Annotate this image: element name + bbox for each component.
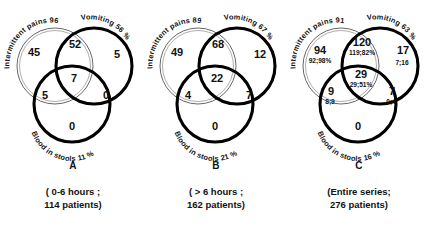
region-vomiting-only: 17: [397, 44, 409, 56]
panel-letter-a: A: [0, 160, 146, 171]
region-pains-blood: 5: [42, 89, 48, 101]
panel-caption-a: ( 0-6 hours ; 114 patients): [0, 186, 146, 211]
set-label-pains-text: Intermittent pains 96 %: [0, 0, 62, 69]
venn-figure: Intermittent pains 96 % Vomiting 56 % Bl…: [0, 0, 439, 234]
region-vomiting-only-sub: 7;16: [395, 59, 409, 67]
region-pains-vomiting: 52: [69, 38, 81, 50]
caption-line-1: (Entire series;: [286, 186, 432, 199]
region-pains-only: 94: [314, 44, 327, 56]
venn-diagram-b: Intermittent pains 89 % Vomiting 67 % Bl…: [143, 0, 289, 160]
region-pains-only-sub: 92;98%: [309, 57, 332, 65]
region-vomiting-blood: 7: [246, 89, 252, 101]
region-all-three-sub: 29;51%: [350, 81, 373, 89]
set-label-blood: Blood in stools 21 %: [173, 130, 239, 163]
panel-caption-c: (Entire series; 276 patients): [286, 186, 432, 211]
region-vomiting-only: 5: [114, 48, 120, 60]
region-pains-vomiting: 68: [212, 38, 224, 50]
set-label-blood-text: Blood in stools 16 %: [316, 130, 382, 163]
caption-line-2: 276 patients): [286, 199, 432, 212]
set-label-blood: Blood in stools 11 %: [30, 130, 96, 163]
region-pains-vomiting: 120: [353, 36, 371, 48]
venn-diagram-a: Intermittent pains 96 % Vomiting 56 % Bl…: [0, 0, 146, 160]
region-all-three: 29: [355, 68, 367, 80]
panel-letter-c: C: [286, 160, 432, 171]
set-label-blood: Blood in stools 16 %: [316, 130, 382, 163]
region-blood-only: 0: [355, 120, 361, 132]
region-pains-only: 49: [171, 46, 183, 58]
caption-line-2: 162 patients): [143, 199, 289, 212]
set-label-pains-text: Intermittent pains 89 %: [140, 0, 205, 69]
region-vomiting-blood: 7: [389, 85, 395, 97]
set-label-pains: Intermittent pains 89 %: [140, 0, 205, 69]
panel-letter-b: B: [143, 160, 289, 171]
caption-line-2: 114 patients): [0, 199, 146, 212]
region-blood-only: 0: [69, 120, 75, 132]
panel-caption-b: ( > 6 hours ; 162 patients): [143, 186, 289, 211]
caption-line-1: ( > 6 hours ;: [143, 186, 289, 199]
region-pains-blood-sub: 8;9: [325, 98, 335, 106]
region-vomiting-blood: 0: [103, 89, 109, 101]
set-label-blood-text: Blood in stools 11 %: [30, 130, 96, 163]
venn-panel-c: Intermittent pains 91 % Vomiting 63 % Bl…: [286, 0, 432, 234]
region-pains-vomiting-sub: 119;82%: [349, 49, 375, 57]
set-label-pains: Intermittent pains 96 %: [0, 0, 62, 69]
region-pains-only: 45: [28, 46, 40, 58]
set-label-blood-text: Blood in stools 21 %: [173, 130, 239, 163]
region-pains-blood: 9: [328, 85, 334, 97]
venn-diagram-c: Intermittent pains 91 % Vomiting 63 % Bl…: [286, 0, 432, 160]
region-pains-blood: 4: [185, 89, 192, 101]
region-all-three: 7: [71, 72, 77, 84]
caption-line-1: ( 0-6 hours ;: [0, 186, 146, 199]
region-blood-only: 0: [212, 120, 218, 132]
region-vomiting-blood-sub: 0;4: [386, 98, 396, 106]
region-all-three: 22: [211, 72, 223, 84]
region-vomiting-only: 12: [254, 48, 266, 60]
venn-panel-b: Intermittent pains 89 % Vomiting 67 % Bl…: [143, 0, 289, 234]
venn-panel-a: Intermittent pains 96 % Vomiting 56 % Bl…: [0, 0, 146, 234]
